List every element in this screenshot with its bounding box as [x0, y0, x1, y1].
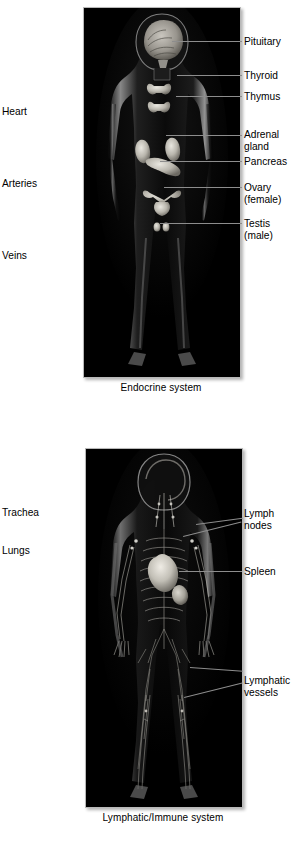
leader-pituitary	[172, 41, 242, 42]
leader-thymus	[176, 96, 242, 97]
leader-adrenal-gland	[166, 135, 242, 136]
endocrine-system-image-panel	[83, 7, 241, 378]
label-lungs: Lungs	[2, 545, 30, 557]
label-thymus: Thymus	[244, 91, 280, 103]
label-heart: Heart	[2, 106, 27, 118]
label-spleen: Spleen	[244, 566, 276, 578]
label-ovary-female: Ovary (female)	[244, 182, 281, 205]
leader-pancreas	[160, 161, 242, 162]
lymphatic-caption: Lymphatic/Immune system	[85, 812, 241, 824]
leader-thyroid	[177, 75, 242, 76]
leader-testis	[160, 223, 242, 224]
neck	[154, 68, 170, 80]
label-lymph-nodes: Lymph nodes	[244, 508, 274, 531]
label-trachea: Trachea	[2, 507, 39, 519]
label-arteries: Arteries	[2, 178, 37, 190]
label-thyroid: Thyroid	[244, 70, 278, 82]
lymphatic-body-illustration	[86, 449, 242, 807]
leader-ovary	[164, 187, 242, 188]
label-adrenal-gland: Adrenal gland	[244, 129, 279, 152]
label-veins: Veins	[2, 250, 27, 262]
lymphatic-system-image-panel	[85, 448, 243, 808]
brain	[144, 20, 183, 60]
label-pituitary: Pituitary	[244, 36, 281, 48]
label-pancreas: Pancreas	[244, 156, 287, 168]
label-testis-male: Testis (male)	[244, 218, 273, 241]
leader-spleen	[179, 571, 242, 572]
endocrine-body-illustration	[84, 8, 240, 377]
endocrine-caption: Endocrine system	[83, 382, 239, 394]
label-lymphatic-vessels: Lymphatic vessels	[244, 675, 290, 698]
